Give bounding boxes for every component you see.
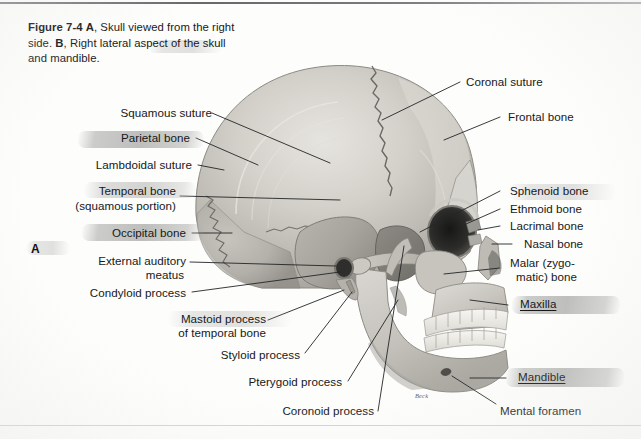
label-external-auditory: External auditory bbox=[78, 254, 186, 268]
figure-caption: Figure 7-4 A, Skull viewed from the righ… bbox=[28, 20, 240, 67]
label-external-meatus: meatus bbox=[112, 268, 184, 282]
label-frontal-bone: Frontal bone bbox=[508, 110, 612, 124]
pterygoid-process-shape bbox=[390, 286, 407, 316]
label-mastoid-temporal: of temporal bone bbox=[156, 326, 266, 340]
label-styloid-process: Styloid process bbox=[200, 348, 300, 362]
label-lambdoidal-suture: Lambdoidal suture bbox=[68, 158, 192, 172]
label-mastoid-process: Mastoid process bbox=[164, 312, 266, 326]
label-maxilla: Maxilla bbox=[520, 297, 620, 311]
label-sphenoid-bone: Sphenoid bone bbox=[510, 184, 620, 198]
label-temporal-bone: Temporal bone bbox=[80, 184, 176, 198]
caption-marker-b: B bbox=[55, 37, 63, 49]
label-squamous-suture: Squamous suture bbox=[94, 106, 212, 120]
label-coronoid-process: Coronoid process bbox=[264, 404, 374, 418]
figure-page: Figure 7-4 A, Skull viewed from the righ… bbox=[0, 0, 641, 439]
label-malar-bone-2: matic) bone bbox=[516, 270, 616, 284]
figure-number: Figure 7-4 bbox=[28, 21, 83, 33]
panel-letter-a: A bbox=[31, 242, 40, 256]
label-occipital-bone: Occipital bone bbox=[86, 226, 186, 240]
artist-signature: Beck bbox=[415, 392, 428, 399]
label-malar-bone-1: Malar (zygo- bbox=[510, 256, 610, 270]
label-nasal-bone: Nasal bone bbox=[524, 237, 620, 251]
label-condyloid-process: Condyloid process bbox=[80, 286, 186, 300]
caption-marker-a: A bbox=[83, 21, 94, 33]
label-mental-foramen: Mental foramen bbox=[500, 404, 624, 418]
label-pterygoid-process: Pterygoid process bbox=[228, 375, 342, 389]
label-temporal-bone-sub: (squamous portion) bbox=[66, 199, 176, 213]
external-auditory-meatus-shape bbox=[335, 258, 353, 278]
label-mandible: Mandible bbox=[518, 370, 618, 384]
label-ethmoid-bone: Ethmoid bone bbox=[510, 202, 616, 216]
label-parietal-bone: Parietal bone bbox=[86, 131, 190, 145]
label-lacrimal-bone: Lacrimal bone bbox=[510, 219, 616, 233]
label-coronal-suture: Coronal suture bbox=[466, 75, 586, 89]
